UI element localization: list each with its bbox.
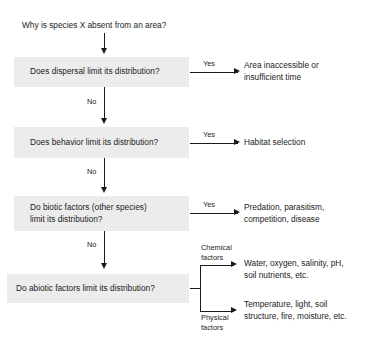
edge-label-dispersal-yes: Yes [203,59,215,69]
decision-box-dispersal-label: Does dispersal limit its distribution? [30,66,160,78]
arrowhead-biotic-no [101,263,107,269]
outcome-chemical-factors: Water, oxygen, salinity, pH, soil nutrie… [244,258,372,281]
root-question: Why is species X absent from an area? [22,20,197,32]
connector-abiotic-spine [200,265,201,312]
edge-label-biotic-no: No [87,240,96,250]
connector-biotic-yes [190,213,238,214]
connector-abiotic-physical [200,311,234,312]
decision-box-abiotic-label: Do abiotic factors limit its distributio… [16,283,155,295]
arrowhead-dispersal-yes [234,68,240,74]
edge-label-biotic-yes: Yes [203,200,215,210]
arrowhead-biotic-yes [234,209,240,215]
edge-label-physical-factors: Physical factors [201,313,241,332]
flowchart-canvas: Why is species X absent from an area? Do… [0,0,373,344]
decision-box-behavior[interactable]: Does behavior limit its distribution? [14,127,189,158]
decision-box-abiotic[interactable]: Do abiotic factors limit its distributio… [7,274,189,303]
outcome-behavior-yes: Habitat selection [244,137,370,149]
arrowhead-root-to-dispersal [101,48,107,54]
outcome-dispersal-yes: Area inaccessible or insufficient time [244,60,370,83]
decision-box-biotic-label: Do biotic factors (other species) limit … [30,202,147,225]
outcome-physical-factors: Temperature, light, soil structure, fire… [244,299,373,322]
connector-behavior-yes [190,143,238,144]
edge-label-chemical-factors: Chemical factors [201,243,241,262]
decision-box-biotic[interactable]: Do biotic factors (other species) limit … [14,196,189,231]
arrowhead-abiotic-chemical [231,261,237,267]
connector-dispersal-no [104,87,105,120]
connector-biotic-no [104,231,105,265]
arrowhead-behavior-yes [234,139,240,145]
connector-dispersal-yes [190,72,238,73]
arrowhead-behavior-no [101,187,107,193]
connector-abiotic-chemical [200,265,234,266]
edge-label-behavior-no: No [87,167,96,177]
outcome-biotic-yes: Predation, parasitism, competition, dise… [244,202,370,225]
connector-behavior-no [104,158,105,189]
decision-box-dispersal[interactable]: Does dispersal limit its distribution? [14,57,189,87]
edge-label-behavior-yes: Yes [203,130,215,140]
edge-label-dispersal-no: No [87,97,96,107]
decision-box-behavior-label: Does behavior limit its distribution? [30,137,158,149]
arrowhead-dispersal-no [101,118,107,124]
